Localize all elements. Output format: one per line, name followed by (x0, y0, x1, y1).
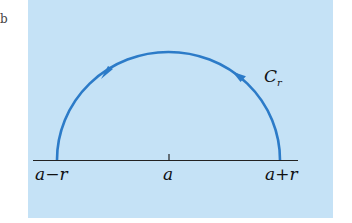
contour-subscript: r (277, 77, 282, 88)
contour-name: C (264, 66, 277, 86)
label-right-endpoint: a+r (265, 164, 298, 184)
semicircle-contour (57, 52, 280, 160)
contour-diagram (0, 0, 352, 223)
label-center: a (163, 164, 173, 184)
label-left-endpoint: a−r (35, 164, 68, 184)
contour-label: Cr (264, 66, 282, 88)
